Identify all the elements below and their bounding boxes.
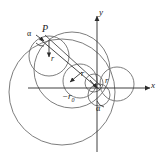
lower-origin-circle — [88, 84, 110, 106]
diagram-canvas — [0, 0, 161, 159]
alpha-upper-label: α — [27, 30, 31, 38]
radius-label-3: r — [105, 77, 108, 85]
y-axis-label: y — [99, 8, 103, 17]
r-zero-main: −r — [62, 91, 72, 101]
alpha-lower-label: α — [96, 105, 100, 113]
circle-family — [9, 32, 134, 145]
r-zero-subscript: 0 — [72, 97, 75, 103]
point-p-label: P — [42, 24, 48, 34]
radius-label-1: r — [51, 55, 54, 63]
geometric-diagram: P α α r r r −r0 y x — [0, 0, 161, 159]
x-axis-label: x — [151, 81, 155, 90]
r-zero-label: −r0 — [62, 92, 75, 103]
radius-label-2: r — [81, 70, 84, 78]
